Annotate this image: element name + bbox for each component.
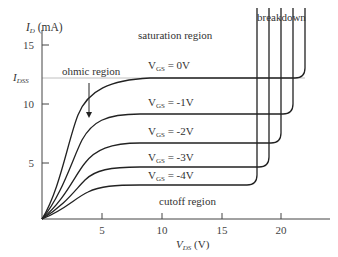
idss-label: IDSS	[13, 72, 29, 85]
vgs-label-subscript: GS	[156, 157, 165, 165]
vgs-label-value: = 0V	[165, 59, 190, 71]
vgs-label-symbol: V	[148, 151, 156, 163]
x-axis-label-unit: (V)	[191, 238, 209, 250]
y-axis-label-unit: (mA)	[35, 21, 63, 33]
vgs-label-value: = -3V	[165, 151, 194, 163]
vgs-label-minus3: VGS = -3V	[148, 152, 194, 165]
vgs-label-minus2: VGS = -2V	[148, 126, 194, 139]
vgs-label-subscript: GS	[156, 102, 165, 110]
vgs-label-value: = -4V	[165, 169, 194, 181]
ohmic-arrow-head	[86, 112, 92, 118]
x-tick-label-10: 10	[152, 224, 172, 236]
x-tick-label-15: 15	[212, 224, 232, 236]
x-axis-label-symbol: V	[176, 238, 183, 250]
y-tick-label-10: 10	[14, 98, 34, 110]
vgs-label-value: = -2V	[165, 125, 194, 137]
x-axis-label-subscript: DS	[183, 244, 192, 252]
vgs-label-minus4: VGS = -4V	[148, 170, 194, 183]
vgs-label-minus1: VGS = -1V	[148, 97, 194, 110]
ohmic-region-label: ohmic region	[62, 66, 120, 77]
x-tick-label-20: 20	[271, 224, 291, 236]
vgs-label-symbol: V	[148, 125, 156, 137]
vgs-label-subscript: GS	[156, 131, 165, 139]
y-axis-label: ID (mA)	[26, 22, 63, 35]
vgs-label-symbol: V	[148, 96, 156, 108]
y-tick-label-5: 5	[14, 157, 34, 169]
vgs-label-subscript: GS	[156, 65, 165, 73]
x-axis-label: VDS (V)	[176, 239, 209, 252]
x-tick-label-5: 5	[92, 224, 112, 236]
vgs-label-symbol: V	[148, 169, 156, 181]
cutoff-region-label: cutoff region	[159, 196, 216, 207]
idss-label-subscript: DSS	[17, 77, 29, 85]
vgs-label-symbol: V	[148, 59, 156, 71]
saturation-region-label: saturation region	[138, 30, 212, 41]
vgs-label-0: VGS = 0V	[148, 60, 190, 73]
breakdown-label: breakdown	[257, 12, 306, 23]
vgs-label-subscript: GS	[156, 175, 165, 183]
vgs-label-value: = -1V	[165, 96, 194, 108]
y-tick-label-15: 15	[14, 39, 34, 51]
